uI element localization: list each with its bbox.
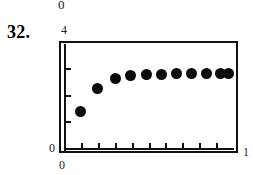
data-point <box>156 69 167 80</box>
y-axis-line <box>64 44 66 152</box>
figure-page: 0 32. 4 0 0 1 <box>0 0 253 175</box>
x-tick <box>132 143 134 148</box>
x-tick <box>149 143 151 148</box>
x-tick <box>182 143 184 148</box>
data-point <box>171 68 182 79</box>
x-tick <box>115 143 117 148</box>
data-point <box>92 83 103 94</box>
data-point <box>201 68 212 79</box>
x-tick <box>199 143 201 148</box>
x-tick <box>98 143 100 148</box>
data-point <box>110 73 121 84</box>
x-tick <box>165 143 167 148</box>
y-tick <box>66 68 71 70</box>
data-point <box>141 69 152 80</box>
y-tick <box>66 95 71 97</box>
y-tick <box>66 121 71 123</box>
x-tick <box>81 143 83 148</box>
plot-area <box>0 0 253 175</box>
data-point <box>223 68 234 79</box>
data-point <box>75 106 86 117</box>
x-tick <box>216 143 218 148</box>
x-axis-line <box>64 148 234 150</box>
data-point <box>125 70 136 81</box>
data-point <box>186 68 197 79</box>
